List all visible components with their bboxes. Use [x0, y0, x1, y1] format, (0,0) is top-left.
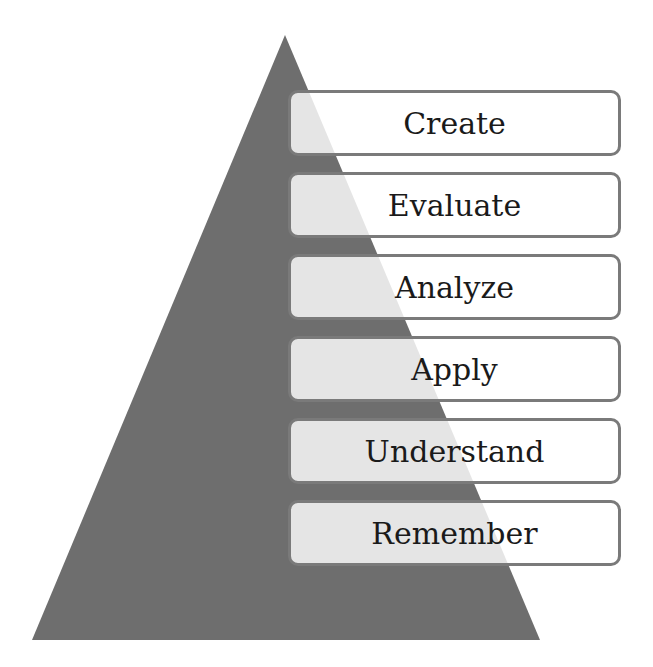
level-analyze: Analyze [288, 254, 621, 320]
level-label: Analyze [395, 270, 514, 305]
level-label: Understand [365, 434, 545, 469]
level-label: Create [403, 106, 506, 141]
level-evaluate: Evaluate [288, 172, 621, 238]
level-create: Create [288, 90, 621, 156]
level-label: Apply [411, 352, 498, 387]
level-remember: Remember [288, 500, 621, 566]
level-label: Remember [371, 516, 537, 551]
level-apply: Apply [288, 336, 621, 402]
level-label: Evaluate [388, 188, 521, 223]
level-understand: Understand [288, 418, 621, 484]
